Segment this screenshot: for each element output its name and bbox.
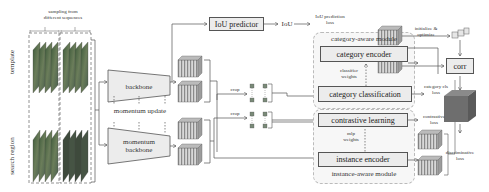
- backbone-label: backbone: [110, 83, 168, 91]
- iou-prediction-loss-label: IoU prediction loss: [308, 14, 352, 26]
- corr-box: corr: [446, 58, 474, 74]
- category-cls-loss-label: category cls loss: [420, 84, 452, 96]
- mlp-weights-label: mlp weights: [340, 131, 362, 143]
- category-module-title: category-aware module: [313, 35, 415, 43]
- momentum-backbone-label: momentum backbone: [110, 138, 168, 154]
- category-cls-loss-line2: loss: [420, 90, 452, 96]
- crop-label-1: crop: [228, 87, 242, 93]
- classifier-weights-line2: weights: [334, 74, 364, 80]
- instance-module-title: instance-aware module: [313, 170, 415, 178]
- input-images: [29, 27, 91, 183]
- crop-label-2: crop: [228, 111, 242, 117]
- discriminative-loss-label: discriminative loss: [436, 150, 484, 162]
- sampling-label-line2: different sequences: [38, 15, 88, 21]
- search-region-label: search region: [8, 126, 16, 186]
- sampling-label: sampling from different sequences: [38, 9, 88, 21]
- momentum-backbone-line1: momentum: [110, 138, 168, 146]
- mlp-weights-line2: weights: [340, 137, 362, 143]
- iou-loss-line2: loss: [308, 20, 352, 26]
- contrastive-loss-line2: loss: [419, 120, 449, 126]
- category-encoder-box: category encoder: [320, 46, 408, 62]
- feature-maps-backbone: [178, 56, 202, 102]
- disc-loss-line2: loss: [436, 156, 484, 162]
- instance-encoder-box: instance encoder: [318, 152, 408, 167]
- contrastive-loss-label: contrastive loss: [419, 114, 449, 126]
- contrastive-learning-box: contrastive learning: [318, 113, 408, 127]
- roi-features: [250, 84, 267, 128]
- iou-predictor-box: IoU predictor: [209, 17, 264, 31]
- feature-maps-momentum: [178, 118, 202, 165]
- category-classification-box: category classification: [318, 86, 412, 102]
- momentum-backbone-line2: backbone: [110, 146, 168, 154]
- initialize-optimize-label: initialize & optimize: [408, 26, 444, 38]
- iou-label: IoU: [279, 20, 295, 28]
- classifier-weights-label: classifier weights: [334, 68, 364, 80]
- init-line2: optimize: [408, 32, 444, 38]
- template-label: template: [8, 42, 16, 82]
- momentum-update-label: momentum update: [100, 107, 180, 115]
